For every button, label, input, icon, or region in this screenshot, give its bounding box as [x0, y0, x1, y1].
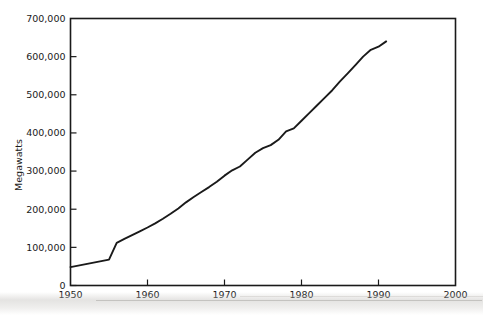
y-tick-label: 700,000 — [26, 13, 65, 24]
y-tick-label: 200,000 — [26, 204, 65, 215]
chart-container: 0100,000200,000300,000400,000500,000600,… — [0, 0, 483, 315]
line-chart: 0100,000200,000300,000400,000500,000600,… — [0, 0, 483, 315]
y-tick-label: 600,000 — [26, 51, 65, 62]
y-tick-label: 100,000 — [26, 242, 65, 253]
x-tick-label: 1970 — [212, 289, 236, 300]
x-tick-label: 1960 — [135, 289, 159, 300]
y-tick-label: 400,000 — [26, 127, 65, 138]
x-tick-label: 2000 — [443, 289, 467, 300]
y-tick-label: 500,000 — [26, 89, 65, 100]
plot-frame — [71, 19, 456, 286]
y-tick-label: 300,000 — [26, 165, 65, 176]
y-axis-ticks: 0100,000200,000300,000400,000500,000600,… — [26, 13, 76, 291]
x-tick-label: 1980 — [289, 289, 313, 300]
y-axis-title: Megawatts — [13, 139, 24, 191]
x-tick-label: 1990 — [366, 289, 390, 300]
x-tick-label: 1950 — [58, 289, 82, 300]
